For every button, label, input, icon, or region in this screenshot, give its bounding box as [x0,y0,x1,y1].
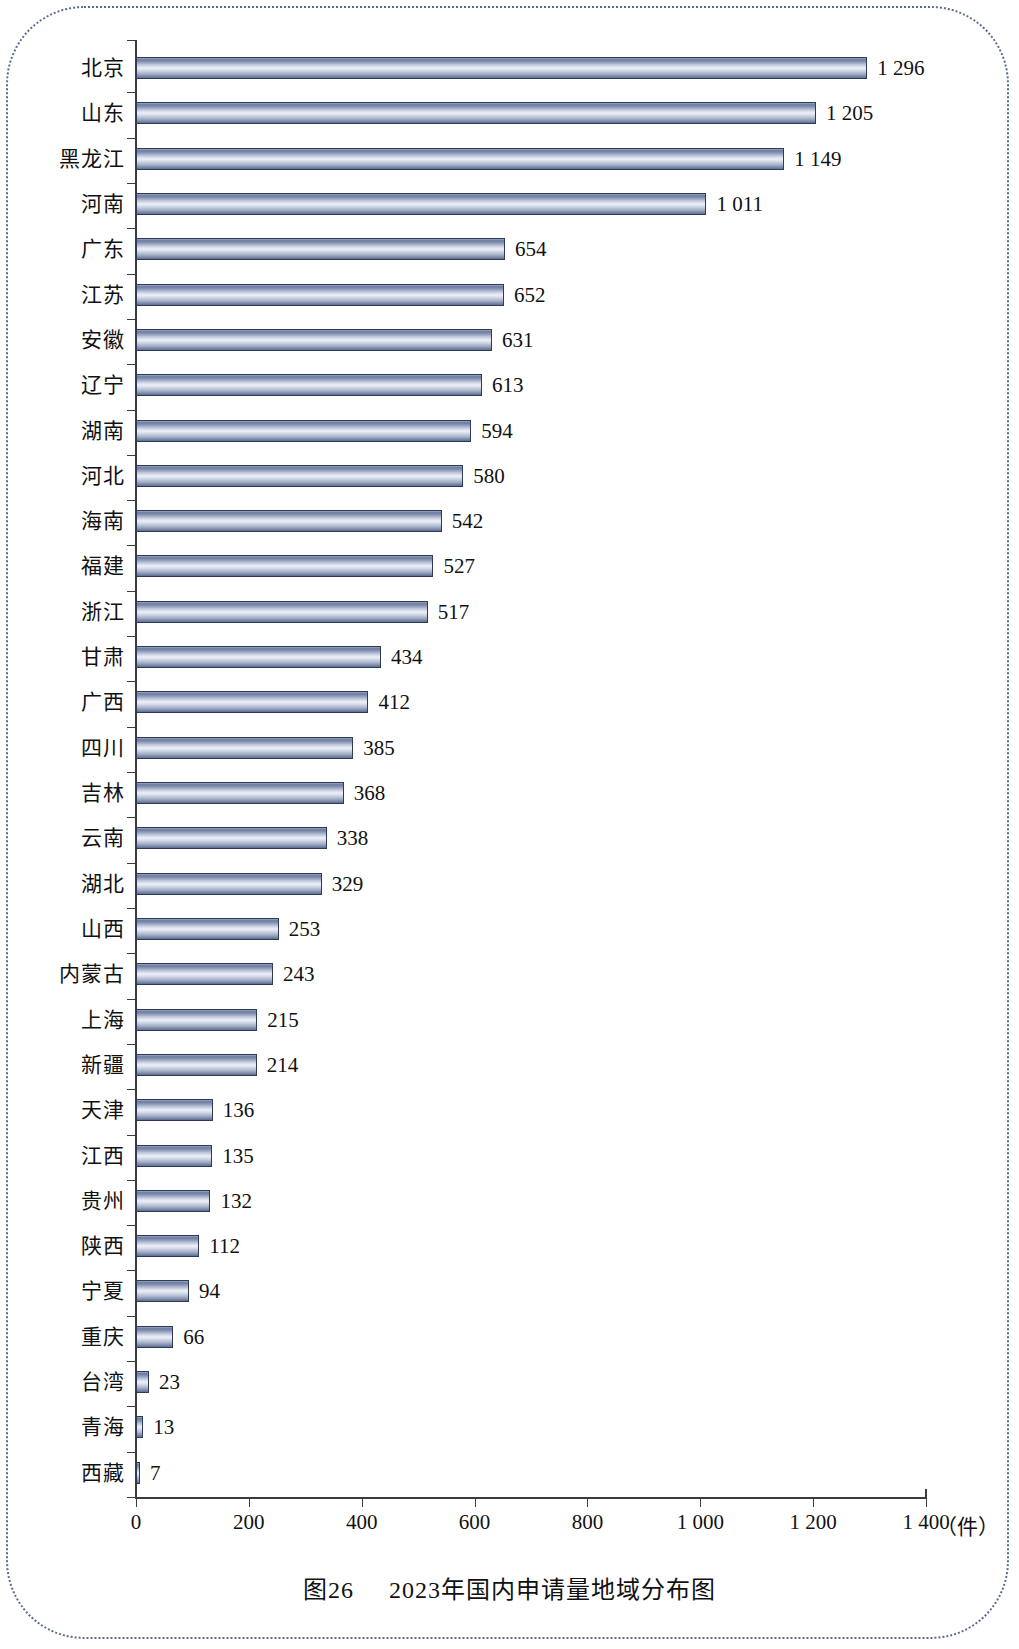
bar-fill [136,1190,210,1212]
bar-fill [136,420,471,442]
bar-fill [136,1054,257,1076]
category-label: 山西 [0,908,125,950]
category-label: 新疆 [0,1044,125,1086]
bar-row: 新疆214 [0,1044,1019,1086]
bar-value-label: 215 [267,1009,299,1031]
x-axis-tick-label: 600 [415,1510,535,1535]
bar-row: 海南542 [0,500,1019,542]
bar [136,782,344,804]
bar-row: 安徽631 [0,319,1019,361]
category-label: 上海 [0,999,125,1041]
bar [136,1145,212,1167]
bar-value-label: 654 [515,238,547,260]
category-label: 内蒙古 [0,953,125,995]
category-label: 宁夏 [0,1270,125,1312]
category-label: 北京 [0,47,125,89]
x-axis-tick-label: 1 000 [640,1510,760,1535]
bar-value-label: 517 [438,601,470,623]
bar-value-label: 338 [337,827,369,849]
figure-caption: 图26 2023年国内申请量地域分布图 [0,1570,1019,1605]
category-label: 河北 [0,455,125,497]
bar [136,1280,189,1302]
bar-fill [136,329,492,351]
bar-value-label: 329 [332,873,364,895]
bar-fill [136,646,381,668]
x-axis-tick [475,1499,476,1507]
bar [136,1235,199,1257]
x-axis-tick-label: 0 [76,1510,196,1535]
bar-row: 浙江517 [0,591,1019,633]
bar [136,57,867,79]
bar [136,1009,257,1031]
y-axis-tick [127,1497,136,1498]
bar-value-label: 1 205 [826,102,873,124]
bar-fill [136,102,816,124]
bar [136,963,273,985]
bar-row: 天津136 [0,1089,1019,1131]
bar-value-label: 594 [481,420,513,442]
bar-fill [136,374,482,396]
bar [136,601,428,623]
bar-row: 青海13 [0,1406,1019,1448]
bar-value-label: 1 149 [794,148,841,170]
bar-row: 内蒙古243 [0,953,1019,995]
category-label: 浙江 [0,591,125,633]
category-label: 安徽 [0,319,125,361]
bar-row: 台湾23 [0,1361,1019,1403]
bar [136,1371,149,1393]
x-axis-line [135,1497,927,1499]
bar-row: 重庆66 [0,1316,1019,1358]
category-label: 西藏 [0,1452,125,1494]
bar-fill [136,284,504,306]
bar-fill [136,1280,189,1302]
bar-fill [136,827,327,849]
bar-row: 江苏652 [0,274,1019,316]
category-label: 青海 [0,1406,125,1448]
bar [136,284,504,306]
bar-fill [136,1371,149,1393]
x-axis-unit-label: （件） [936,1510,999,1540]
bar-fill [136,1099,213,1121]
figure-caption-title: 2023年国内申请量地域分布图 [389,1577,716,1603]
bar-value-label: 368 [354,782,386,804]
bar-value-label: 385 [363,737,395,759]
bar [136,691,368,713]
bar [136,737,353,759]
bar-row: 云南338 [0,817,1019,859]
category-label: 河南 [0,183,125,225]
category-label: 湖北 [0,863,125,905]
bar-row: 河北580 [0,455,1019,497]
x-axis-tick [249,1499,250,1507]
bar [136,1099,213,1121]
bar [136,329,492,351]
category-label: 重庆 [0,1316,125,1358]
category-label: 山东 [0,92,125,134]
bar-fill [136,465,463,487]
bar-row: 河南1 011 [0,183,1019,225]
bar [136,1462,140,1484]
bar-row: 山西253 [0,908,1019,950]
bar [136,420,471,442]
category-label: 甘肃 [0,636,125,678]
bar-fill [136,1235,199,1257]
category-label: 江西 [0,1135,125,1177]
bar-value-label: 542 [452,510,484,532]
bar-value-label: 412 [378,691,410,713]
bar-value-label: 613 [492,374,524,396]
bar [136,465,463,487]
bar-fill [136,782,344,804]
bar-fill [136,1462,140,1484]
bar [136,646,381,668]
bar-value-label: 13 [153,1416,174,1438]
bar-row: 陕西112 [0,1225,1019,1267]
y-axis-top-cap [127,40,136,41]
bar-fill [136,918,279,940]
bar-row: 黑龙江1 149 [0,138,1019,180]
category-label: 湖南 [0,410,125,452]
bar [136,193,706,215]
bar-fill [136,510,442,532]
category-label: 天津 [0,1089,125,1131]
x-axis-tick-label: 400 [302,1510,422,1535]
bar-fill [136,148,784,170]
bar-value-label: 631 [502,329,534,351]
